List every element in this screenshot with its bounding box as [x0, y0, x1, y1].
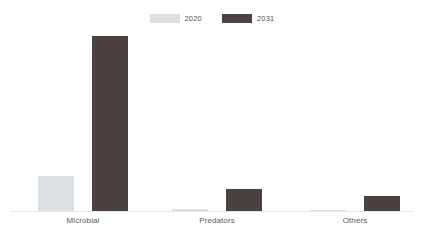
bar-2031-others[interactable]	[364, 196, 400, 211]
bar-2020-others[interactable]	[310, 210, 346, 211]
x-axis-label-others: Others	[310, 216, 400, 226]
plot-area	[0, 0, 424, 237]
bar-group	[310, 0, 400, 211]
bar-2031-microbial[interactable]	[92, 36, 128, 211]
bar-group	[172, 0, 262, 211]
bar-group	[38, 0, 128, 211]
x-axis-line	[10, 211, 414, 212]
bar-2020-predators[interactable]	[172, 209, 208, 211]
x-axis-label-predators: Predators	[172, 216, 262, 226]
bars-layer	[0, 0, 424, 211]
x-axis-labels: MicrobialPredatorsOthers	[0, 216, 424, 234]
bar-chart: 2020 2031 MicrobialPredatorsOthers	[0, 0, 424, 237]
bar-2031-predators[interactable]	[226, 189, 262, 211]
x-axis-label-microbial: Microbial	[38, 216, 128, 226]
bar-2020-microbial[interactable]	[38, 176, 74, 211]
